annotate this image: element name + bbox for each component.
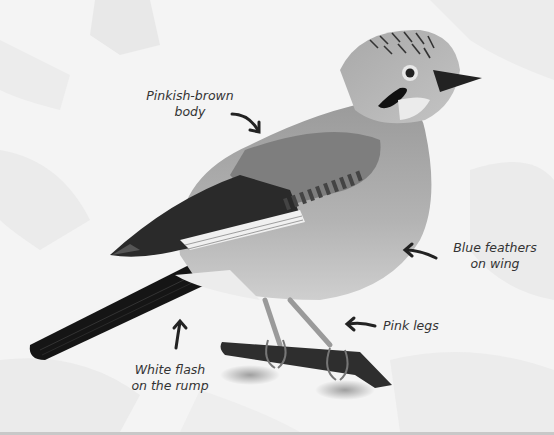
label-legs: Pink legs — [383, 318, 453, 334]
label-wing: Blue feathers on wing — [440, 240, 550, 272]
label-rump: White flash on the rump — [120, 362, 220, 394]
label-body-line1: Pinkish-brown — [140, 88, 240, 104]
label-body: Pinkish-brown body — [140, 88, 240, 120]
arrow-wing-icon — [400, 240, 440, 264]
label-body-line2: body — [140, 104, 240, 120]
label-rump-line2: on the rump — [120, 378, 220, 394]
label-wing-line1: Blue feathers — [440, 240, 550, 256]
label-wing-line2: on wing — [440, 256, 550, 272]
jay-illustration — [0, 0, 554, 435]
arrow-legs-icon — [343, 314, 379, 334]
label-legs-line1: Pink legs — [383, 318, 453, 334]
head — [340, 30, 482, 123]
figure: Pinkish-brown body Blue feathers on wing… — [0, 0, 554, 435]
arrow-rump-icon — [168, 318, 192, 352]
legs — [265, 300, 330, 345]
label-rump-line1: White flash — [120, 362, 220, 378]
